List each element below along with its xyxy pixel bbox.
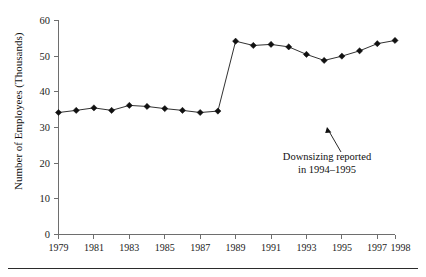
annotation-line-1: Downsizing reported xyxy=(283,151,372,162)
y-tick-label-50: 50 xyxy=(40,51,51,62)
annotation-line-2: in 1994–1995 xyxy=(298,164,356,175)
chart-background xyxy=(0,0,426,277)
y-tick-label-40: 40 xyxy=(40,86,51,97)
x-tick-label-1979: 1979 xyxy=(49,242,69,253)
y-axis-title: Number of Employees (Thousands) xyxy=(12,32,25,190)
x-tick-label-1989: 1989 xyxy=(226,242,246,253)
x-tick-label-1993: 1993 xyxy=(297,242,317,253)
y-tick-label-20: 20 xyxy=(40,158,51,169)
chart-figure: 0 10 20 30 40 50 60 Number of Employees … xyxy=(0,0,426,277)
x-tick-label-1987: 1987 xyxy=(190,242,210,253)
y-tick-label-10: 10 xyxy=(40,193,51,204)
x-tick-label-1995: 1995 xyxy=(332,242,352,253)
y-tick-label-60: 60 xyxy=(40,15,51,26)
x-tick-label-1985: 1985 xyxy=(155,242,175,253)
y-tick-label-30: 30 xyxy=(40,122,51,133)
x-tick-label-1997: 1997 xyxy=(367,242,387,253)
y-tick-label-0: 0 xyxy=(45,229,50,240)
x-tick-label-1998: 1998 xyxy=(391,242,411,253)
x-tick-label-1981: 1981 xyxy=(84,242,104,253)
x-tick-label-1983: 1983 xyxy=(119,242,139,253)
x-tick-label-1991: 1991 xyxy=(261,242,281,253)
employees-line-chart: 0 10 20 30 40 50 60 Number of Employees … xyxy=(0,0,426,277)
